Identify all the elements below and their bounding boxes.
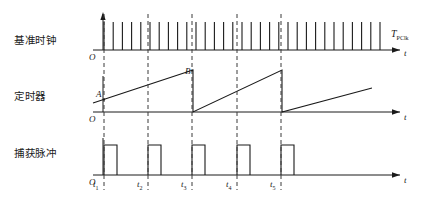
capture-tick-label-t3: t3 <box>181 179 187 191</box>
timer-time-axis-label: t <box>404 112 407 122</box>
timer-origin-label: O <box>89 114 96 124</box>
row-label-timer: 定时器 <box>14 88 46 103</box>
clock-pulse-train <box>104 22 380 50</box>
capture-tick-label-t1: t1 <box>93 179 99 191</box>
capture-time-axis-label: t <box>404 175 407 185</box>
capture-marker-lines <box>104 14 281 190</box>
timer-sawtooth-waveform <box>93 70 372 112</box>
point-label-a: A <box>96 89 102 99</box>
clock-origin-label: O <box>89 52 96 62</box>
point-label-b: B <box>185 66 191 76</box>
capture-tick-label-t2: t2 <box>137 179 143 191</box>
timer-time-axis-arrow <box>392 109 400 115</box>
timing-diagram-svg <box>0 0 427 202</box>
clock-signal-subscript: PClk <box>397 35 409 41</box>
timing-diagram-figure: 基准时钟 定时器 捕获脉冲 TPClk t t t O O O A B t1 t… <box>0 0 427 202</box>
capture-tick-label-t4: t4 <box>226 179 232 191</box>
row-label-capture-pulse: 捕获脉冲 <box>14 145 56 160</box>
clock-signal-label: TPClk <box>391 28 409 41</box>
capture-time-axis-arrow <box>392 172 400 178</box>
clock-time-axis-label: t <box>404 48 407 58</box>
capture-tick-label-t5: t5 <box>270 179 276 191</box>
capture-pulse-train <box>104 145 294 175</box>
row-label-reference-clock: 基准时钟 <box>14 32 56 47</box>
panel-capture-pulse <box>93 138 400 178</box>
point-marker-a <box>103 99 105 101</box>
panel-timer <box>93 70 400 115</box>
clock-time-axis-arrow <box>392 47 400 53</box>
panel-reference-clock <box>93 12 400 53</box>
clock-value-axis-arrow <box>100 12 105 20</box>
point-marker-b <box>191 69 193 71</box>
